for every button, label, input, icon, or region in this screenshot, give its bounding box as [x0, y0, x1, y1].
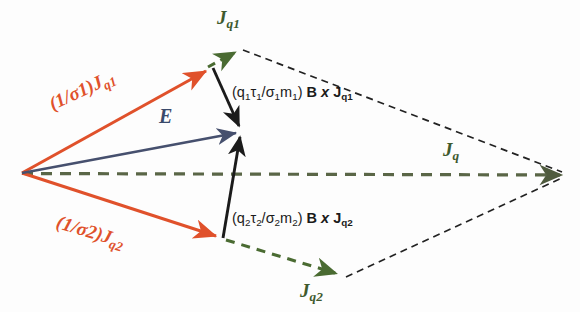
vector-j-q1-resultant	[208, 53, 234, 67]
vector-b-cross-j-q1	[213, 68, 239, 126]
vector-b-cross-j-q2	[223, 137, 240, 238]
vector-j-q-total	[22, 174, 560, 176]
vector-one-over-sigma2-j-q2	[22, 173, 216, 236]
vector-j-q2-resultant	[226, 240, 335, 273]
construction-line-upper	[243, 50, 562, 172]
vector-diagram-canvas: (1/σ1)Jq1 (1/σ2)Jq2 E Jq1 Jq2 Jq (q1τ1/σ…	[0, 0, 580, 312]
vector-electric-field	[22, 133, 236, 173]
construction-line-lower	[346, 178, 562, 277]
diagram-svg	[0, 0, 580, 312]
vector-one-over-sigma1-j-q1	[22, 71, 206, 173]
